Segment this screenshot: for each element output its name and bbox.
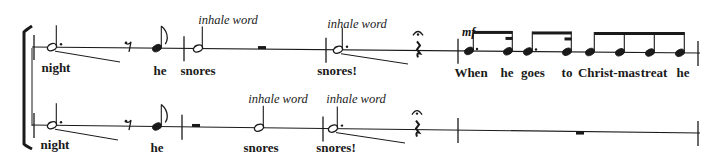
sixteenth-beam (565, 37, 572, 40)
note-beam (532, 31, 571, 34)
lyric-night: night (42, 61, 71, 74)
augmentation-dot (476, 48, 478, 50)
note-flag (161, 26, 167, 44)
half-rest (192, 124, 200, 127)
note-beam (473, 31, 512, 34)
lyric-snores: snores (243, 141, 278, 154)
annotation-inhale-word: inhale word (326, 93, 386, 106)
lyric-he: he (154, 64, 167, 77)
eighth-rest-dot (125, 42, 128, 45)
augmentation-dot (535, 48, 537, 50)
lyric-he: he (151, 141, 164, 154)
fermata-dot (416, 112, 418, 114)
lyric-treat: treat (641, 66, 667, 79)
lyric-when: When (454, 66, 487, 79)
augmentation-dot (60, 43, 62, 45)
lyric-night: night (41, 138, 70, 151)
annotation-inhale-word: inhale word (198, 14, 258, 27)
augmentation-dot (346, 46, 348, 48)
note-beam (594, 32, 684, 35)
lyric-goes: goes (521, 66, 545, 79)
lyric-christ-mas: Christ-mas (578, 66, 640, 79)
annotation-inhale-word: inhale word (248, 93, 308, 106)
augmentation-dot (60, 121, 62, 123)
half-rest (258, 46, 266, 49)
lyric-snores: snores (180, 64, 215, 77)
annotation-inhale-word: inhale word (327, 18, 387, 31)
whole-rest (576, 132, 584, 135)
eighth-rest-dot (125, 120, 128, 123)
dynamic-marking-mf: mf (462, 26, 475, 38)
lyric-to: to (562, 66, 573, 79)
lyric-he: he (677, 66, 690, 79)
lyric-he: he (501, 66, 514, 79)
system-bracket (24, 26, 32, 149)
quarter-rest (416, 121, 419, 137)
staff-line (32, 47, 700, 53)
augmentation-dot (341, 124, 343, 126)
lyric-snores-exclaim: snores! (317, 64, 356, 77)
note-flag (161, 104, 167, 122)
sixteenth-beam (506, 37, 513, 40)
quarter-rest (417, 41, 420, 57)
lyric-snores-exclaim: snores! (316, 141, 355, 154)
staff-line (32, 125, 700, 133)
fermata-dot (417, 33, 419, 35)
